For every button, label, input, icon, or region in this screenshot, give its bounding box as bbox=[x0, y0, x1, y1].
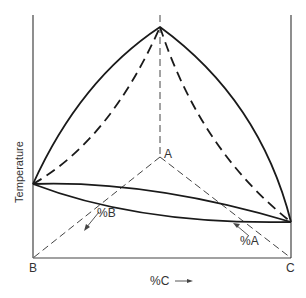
percent-b-label: %B bbox=[97, 206, 116, 220]
bc-lower-curve bbox=[33, 184, 291, 222]
solidus-dashed-curve-right bbox=[160, 27, 291, 222]
percent-b-arrowhead-icon bbox=[84, 224, 90, 231]
temperature-axis-label: Temperature bbox=[13, 141, 25, 203]
liquidus-curve-right bbox=[160, 27, 291, 222]
a-to-c-dashed-line bbox=[160, 157, 291, 258]
vertex-label-b: B bbox=[29, 261, 37, 275]
vertex-label-c: C bbox=[286, 261, 295, 275]
percent-c-arrowhead-icon bbox=[187, 279, 193, 283]
ternary-diagram: Temperature A B C %B %A %C bbox=[0, 0, 306, 298]
solidus-dashed-curve-left bbox=[33, 27, 160, 184]
percent-c-label: %C bbox=[150, 274, 170, 288]
vertex-label-a: A bbox=[164, 147, 172, 161]
percent-a-label: %A bbox=[240, 234, 259, 248]
liquidus-curve-left bbox=[33, 27, 160, 184]
